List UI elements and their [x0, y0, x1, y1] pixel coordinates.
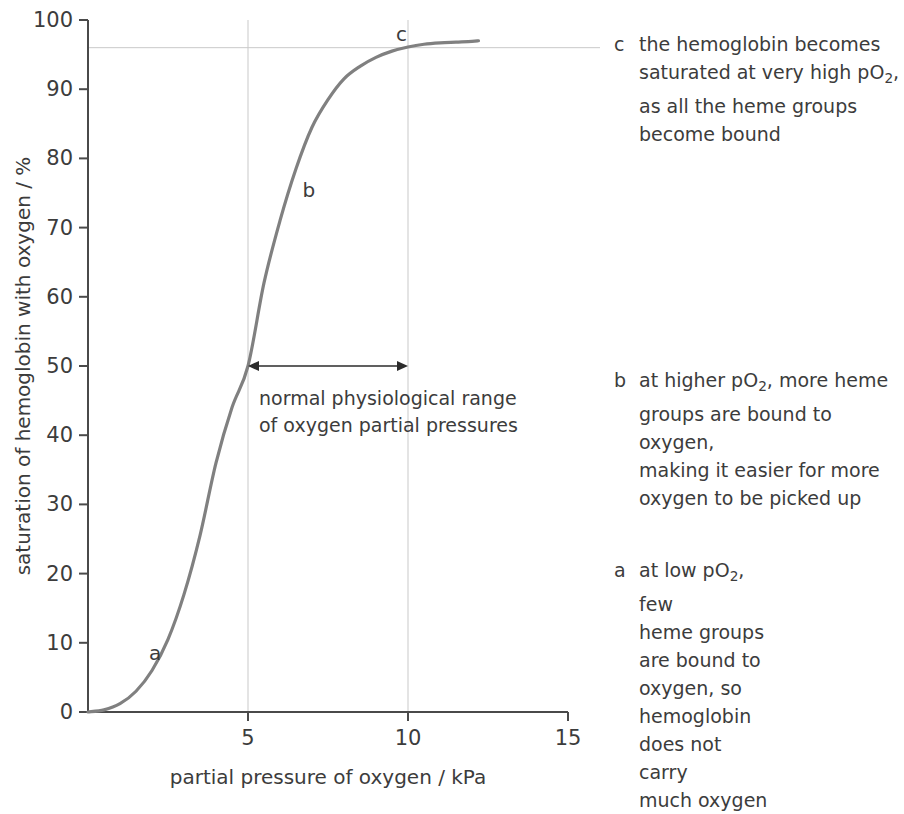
range-arrow-head-right	[397, 361, 408, 371]
subscript-2: 2	[884, 70, 893, 86]
y-tick-label-40: 40	[46, 423, 73, 447]
range-caption-line-1: normal physiological range	[259, 385, 559, 412]
note-a-line-4: oxygen, so	[639, 677, 742, 699]
note-c-line-1: the hemoglobin becomes	[639, 33, 880, 55]
y-tick-label-20: 20	[46, 562, 73, 586]
y-tick-label-50: 50	[46, 354, 73, 378]
curve-marker-b: b	[302, 178, 315, 202]
y-tick-label-0: 0	[60, 700, 73, 724]
note-a-line-7: much oxygen	[639, 789, 767, 811]
note-c-line-3: as all the heme groups	[639, 95, 857, 117]
subscript-2: 2	[730, 568, 739, 584]
y-tick-label-70: 70	[46, 216, 73, 240]
note-a: a at low pO2, few heme groups are bound …	[614, 556, 774, 814]
y-axis-title: saturation of hemoglobin with oxygen / %	[11, 157, 35, 576]
y-tick-label-30: 30	[46, 492, 73, 516]
note-a-key: a	[614, 556, 632, 584]
y-tick-label-90: 90	[46, 77, 73, 101]
x-tick-label-5: 5	[241, 726, 254, 750]
note-a-line-6: does not carry	[639, 733, 721, 783]
x-axis-title: partial pressure of oxygen / kPa	[170, 765, 487, 789]
note-b-key: b	[614, 366, 632, 394]
y-tick-label-100: 100	[33, 8, 73, 32]
curve-marker-c: c	[396, 22, 407, 46]
note-b-line-4: oxygen to be picked up	[639, 487, 861, 509]
y-tick-label-10: 10	[46, 631, 73, 655]
subscript-2: 2	[758, 378, 767, 394]
x-tick-label-15: 15	[555, 726, 582, 750]
y-tick-label-80: 80	[46, 146, 73, 170]
note-b: b at higher pO2, more heme groups are bo…	[614, 366, 904, 512]
note-a-line-2: heme groups	[639, 621, 764, 643]
note-a-line-5: hemoglobin	[639, 705, 751, 727]
note-c: c the hemoglobin becomes saturated at ve…	[614, 30, 899, 148]
chart-plot-area: 010203040506070809010051015abcpartial pr…	[0, 0, 600, 793]
range-caption-line-2: of oxygen partial pressures	[259, 412, 559, 439]
note-c-key: c	[614, 30, 632, 58]
x-tick-label-10: 10	[395, 726, 422, 750]
oxygen-dissociation-curve	[88, 41, 478, 712]
note-c-line-4: become bound	[639, 123, 781, 145]
y-tick-label-60: 60	[46, 285, 73, 309]
curve-marker-a: a	[149, 641, 161, 665]
note-b-line-2: groups are bound to oxygen,	[639, 403, 832, 453]
note-a-body: at low pO2, few heme groups are bound to…	[639, 556, 774, 814]
note-c-body: the hemoglobin becomes saturated at very…	[639, 30, 899, 148]
note-b-body: at higher pO2, more heme groups are boun…	[639, 366, 904, 512]
note-b-line-3: making it easier for more	[639, 459, 880, 481]
physiological-range-caption: normal physiological range of oxygen par…	[259, 385, 559, 439]
annotation-notes-panel: c the hemoglobin becomes saturated at ve…	[614, 0, 904, 793]
note-a-line-3: are bound to	[639, 649, 761, 671]
